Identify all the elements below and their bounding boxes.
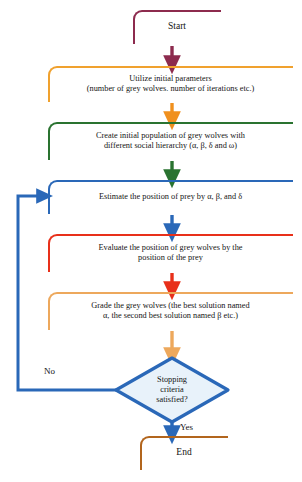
node-initial-parameters-label: Utilize initial parameters (number of gr… [79,74,263,94]
node-start[interactable]: Start [133,10,221,44]
edge-label-yes: Yes [180,422,193,432]
node-grade-wolves[interactable]: Grade the grey wolves (the best solution… [48,292,293,330]
flowchart-canvas: Start Utilize initial parameters (number… [0,0,302,482]
node-end-label: End [168,447,199,459]
node-estimate-prey-position-label: Estimate the position of prey by α, β, a… [91,192,250,202]
node-evaluate-wolf-position-label: Evaluate the position of grey wolves by … [90,243,250,263]
node-evaluate-wolf-position[interactable]: Evaluate the position of grey wolves by … [48,234,293,272]
node-stopping-criteria[interactable]: Stopping criteria satisfied? [116,358,228,422]
node-estimate-prey-position[interactable]: Estimate the position of prey by α, β, a… [48,180,293,214]
node-grade-wolves-label: Grade the grey wolves (the best solution… [83,301,257,321]
node-create-population[interactable]: Create initial population of grey wolves… [48,122,293,160]
node-stopping-criteria-label: Stopping criteria satisfied? [116,358,228,422]
node-initial-parameters[interactable]: Utilize initial parameters (number of gr… [48,66,293,102]
node-end[interactable]: End [140,436,228,470]
edge-label-no: No [44,366,55,376]
node-start-label: Start [160,21,194,33]
node-create-population-label: Create initial population of grey wolves… [88,131,253,151]
